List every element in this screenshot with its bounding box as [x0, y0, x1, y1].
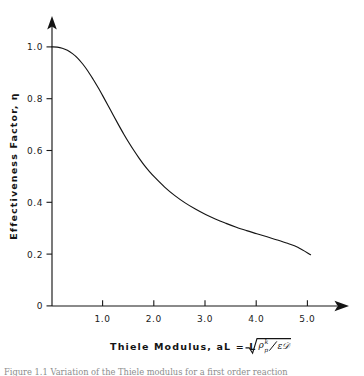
- y-axis-title: Effectiveness Factor, η: [8, 92, 19, 240]
- formula-rho-subscript: p: [264, 346, 268, 354]
- formula-k-superscript: k: [265, 338, 269, 346]
- y-tick-marks: [47, 47, 53, 306]
- y-tick-label-0.2: 0.2: [27, 250, 43, 260]
- x-tick-label-3.0: 3.0: [197, 314, 213, 324]
- x-axis-title: Thiele Modulus, aL = L: [110, 341, 256, 352]
- x-tick-labels: 1.0 2.0 3.0 4.0 5.0: [95, 314, 316, 324]
- y-tick-label-0.8: 0.8: [27, 94, 43, 104]
- x-axis-title-group: Thiele Modulus, aL = L ρ p k ε𝒟: [110, 338, 291, 354]
- y-tick-label-0: 0: [37, 301, 43, 311]
- effectiveness-factor-curve: [52, 47, 311, 255]
- formula-denominator: ε𝒟: [278, 341, 292, 351]
- x-tick-label-5.0: 5.0: [299, 314, 315, 324]
- x-tick-label-2.0: 2.0: [146, 314, 162, 324]
- figure-caption-strip: Figure 1.1 Variation of the Thiele modul…: [0, 368, 364, 376]
- formula-solidus-icon: [269, 341, 276, 350]
- figure-caption: Figure 1.1 Variation of the Thiele modul…: [4, 368, 364, 376]
- y-tick-labels: 1.0 0.8 0.6 0.4 0.2 0: [27, 42, 43, 311]
- figure-container: 1.0 0.8 0.6 0.4 0.2 0 1.0 2.0 3.0 4.0 5.…: [0, 0, 364, 376]
- y-tick-label-1.0: 1.0: [27, 42, 43, 52]
- x-tick-label-4.0: 4.0: [248, 314, 264, 324]
- x-tick-marks: [103, 300, 308, 306]
- x-tick-label-1.0: 1.0: [95, 314, 111, 324]
- axes-group: [47, 16, 349, 311]
- chart-canvas: 1.0 0.8 0.6 0.4 0.2 0 1.0 2.0 3.0 4.0 5.…: [0, 0, 364, 376]
- y-tick-label-0.6: 0.6: [27, 146, 43, 156]
- y-tick-label-0.4: 0.4: [27, 198, 43, 208]
